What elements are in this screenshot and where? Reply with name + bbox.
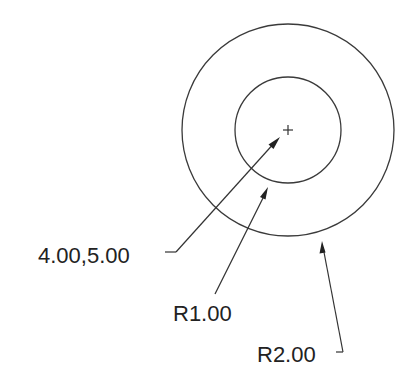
outer-radius-label: R2.00 [257,342,316,367]
center-coordinate-label: 4.00,5.00 [38,243,130,268]
inner-radius-label: R1.00 [173,301,232,326]
inner-radius-leader [215,187,268,294]
center-mark-icon [283,125,293,135]
arrowhead-icon [320,241,326,254]
drawing-canvas: 4.00,5.00 R1.00 R2.00 [0,0,403,378]
outer-radius-leader [320,241,344,352]
arrowhead-icon [260,187,268,200]
